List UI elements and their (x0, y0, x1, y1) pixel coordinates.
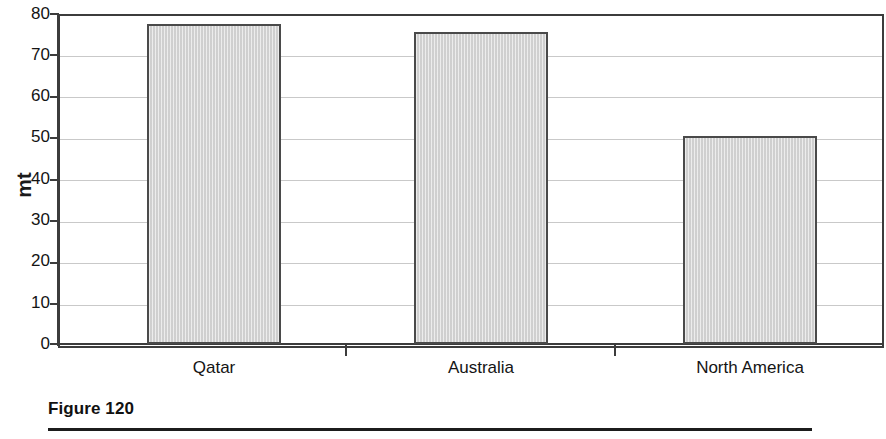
x-axis-category-label: Qatar (134, 358, 294, 378)
bar-north-america[interactable] (683, 136, 817, 344)
figure-caption-block: Figure 120 (48, 399, 814, 431)
figure-caption: Figure 120 (48, 399, 814, 419)
x-axis-tick (345, 345, 347, 356)
x-axis-category-label: North America (670, 358, 830, 378)
x-axis-category-label: Australia (401, 358, 561, 378)
bar-qatar[interactable] (147, 24, 281, 344)
bar-australia[interactable] (414, 32, 548, 344)
x-axis-tick (614, 345, 616, 356)
figure-container: mt 80 70 60 50 40 30 20 10 0 (0, 0, 886, 439)
caption-divider (48, 428, 812, 431)
